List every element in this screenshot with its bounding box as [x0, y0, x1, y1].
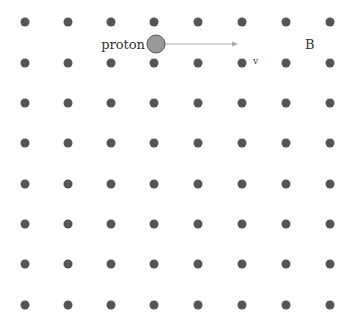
field-dot	[282, 260, 291, 269]
field-dot	[194, 260, 203, 269]
field-dot	[107, 59, 116, 68]
field-dot	[21, 59, 30, 68]
field-dot	[64, 59, 73, 68]
field-dot	[194, 139, 203, 148]
field-dot	[150, 220, 159, 229]
field-dot	[150, 260, 159, 269]
field-dot	[282, 99, 291, 108]
field-dot	[150, 180, 159, 189]
field-dot	[107, 260, 116, 269]
field-dot	[194, 220, 203, 229]
field-dot	[21, 99, 30, 108]
field-dot	[64, 220, 73, 229]
proton-particle	[147, 35, 165, 53]
field-dot	[194, 59, 203, 68]
field-label-b: B	[305, 37, 315, 52]
field-dot	[107, 99, 116, 108]
field-dot	[282, 139, 291, 148]
field-dot	[238, 180, 247, 189]
field-dot	[194, 180, 203, 189]
field-dot	[238, 260, 247, 269]
field-dot	[64, 99, 73, 108]
field-dot	[282, 18, 291, 27]
field-dot	[282, 59, 291, 68]
field-dot	[64, 18, 73, 27]
field-dot	[107, 220, 116, 229]
field-dot	[326, 260, 335, 269]
field-dot	[326, 99, 335, 108]
diagram-canvas: proton v B	[0, 0, 352, 325]
magnetic-field-diagram: proton v B	[0, 0, 352, 325]
velocity-arrow-head	[232, 42, 238, 47]
field-dot	[326, 220, 335, 229]
field-dot	[64, 180, 73, 189]
field-dot	[21, 220, 30, 229]
field-dot	[326, 139, 335, 148]
field-dot	[150, 59, 159, 68]
field-dot	[326, 301, 335, 310]
field-dot	[107, 18, 116, 27]
field-dot	[107, 301, 116, 310]
field-dot	[150, 139, 159, 148]
field-dot	[64, 260, 73, 269]
field-dot	[194, 18, 203, 27]
field-dot	[21, 260, 30, 269]
field-dot	[21, 180, 30, 189]
field-dot	[194, 301, 203, 310]
field-dot	[326, 18, 335, 27]
magnetic-field-dots	[21, 18, 335, 310]
field-dot	[238, 99, 247, 108]
field-dot	[282, 180, 291, 189]
field-dot	[21, 301, 30, 310]
field-dot	[150, 18, 159, 27]
field-dot	[282, 220, 291, 229]
field-dot	[194, 99, 203, 108]
field-dot	[326, 180, 335, 189]
field-dot	[238, 59, 247, 68]
field-dot	[107, 139, 116, 148]
field-dot	[150, 301, 159, 310]
field-dot	[21, 139, 30, 148]
field-dot	[64, 139, 73, 148]
field-dot	[238, 301, 247, 310]
proton-label: proton	[101, 37, 145, 52]
field-dot	[107, 180, 116, 189]
field-dot	[282, 301, 291, 310]
field-dot	[238, 139, 247, 148]
field-dot	[326, 59, 335, 68]
velocity-vector	[165, 42, 238, 47]
field-dot	[150, 99, 159, 108]
velocity-label: v	[252, 56, 259, 66]
field-dot	[238, 18, 247, 27]
field-dot	[64, 301, 73, 310]
field-dot	[21, 18, 30, 27]
field-dot	[238, 220, 247, 229]
